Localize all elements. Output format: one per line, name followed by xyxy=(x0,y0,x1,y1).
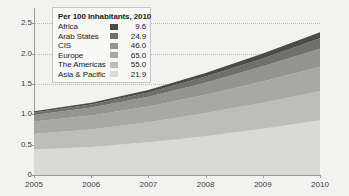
legend-item[interactable]: Asia & Pacific21.9 xyxy=(58,70,146,80)
x-tick-mark xyxy=(34,175,35,178)
legend-item-label: Asia & Pacific xyxy=(58,70,110,80)
legend-color-swatch xyxy=(110,24,118,30)
legend-rows: Africa9.6Arab States24.9CIS46.0Europe65.… xyxy=(58,22,146,79)
legend-item-label: The Americas xyxy=(58,60,110,70)
legend-item-value: 21.9 xyxy=(121,70,146,80)
x-tick-mark xyxy=(91,175,92,178)
x-tick-label: 2010 xyxy=(300,180,340,189)
y-axis: 00.51.01.52.02.5 xyxy=(0,0,32,196)
y-tick-label: 0.5 xyxy=(2,141,32,149)
legend-color-swatch xyxy=(110,43,118,49)
legend-item[interactable]: CIS46.0 xyxy=(58,41,146,51)
legend-item-value: 24.9 xyxy=(121,32,146,42)
legend-item[interactable]: Africa9.6 xyxy=(58,22,146,32)
legend-item[interactable]: Arab States24.9 xyxy=(58,32,146,42)
legend-item-value: 55.0 xyxy=(121,60,146,70)
x-axis-line xyxy=(34,175,320,176)
legend-item-label: Africa xyxy=(58,22,110,32)
legend-item-value: 9.6 xyxy=(121,22,146,32)
legend-item-label: Arab States xyxy=(58,32,110,42)
legend-item-label: Europe xyxy=(58,51,110,61)
legend-item-value: 46.0 xyxy=(121,41,146,51)
legend-color-swatch xyxy=(110,71,118,77)
y-tick-label: 1.5 xyxy=(2,80,32,88)
legend-item[interactable]: Europe65.0 xyxy=(58,51,146,61)
legend-color-swatch xyxy=(110,33,118,39)
x-tick-mark xyxy=(320,175,321,178)
y-tick-label: 2.5 xyxy=(2,19,32,27)
x-tick-label: 2006 xyxy=(71,180,111,189)
legend-item[interactable]: The Americas55.0 xyxy=(58,60,146,70)
y-tick-label: 1.0 xyxy=(2,110,32,118)
legend-item-label: CIS xyxy=(58,41,110,51)
x-tick-mark xyxy=(263,175,264,178)
x-tick-label: 2005 xyxy=(14,180,54,189)
y-tick-label: 2.0 xyxy=(2,50,32,58)
legend-color-swatch xyxy=(110,52,118,58)
x-tick-mark xyxy=(206,175,207,178)
x-tick-mark xyxy=(148,175,149,178)
x-tick-label: 2009 xyxy=(243,180,283,189)
legend-color-swatch xyxy=(110,62,118,68)
x-tick-label: 2007 xyxy=(128,180,168,189)
legend: Per 100 Inhabitants, 2010 Africa9.6Arab … xyxy=(52,7,151,83)
x-tick-label: 2008 xyxy=(186,180,226,189)
legend-title: Per 100 Inhabitants, 2010 xyxy=(58,11,146,22)
stacked-area-chart: 00.51.01.52.02.5 20052006200720082009201… xyxy=(0,0,349,196)
legend-item-value: 65.0 xyxy=(121,51,146,61)
y-tick-label: 0 xyxy=(2,171,32,179)
